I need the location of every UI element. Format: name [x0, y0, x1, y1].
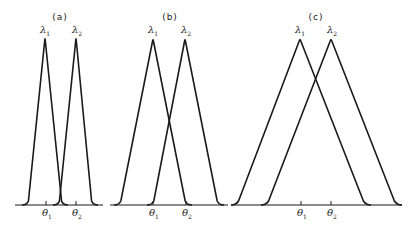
tuning-curve-λ2 — [261, 40, 402, 206]
panel-a — [15, 39, 103, 206]
panel-label: (c) — [309, 13, 324, 22]
tick-label-theta: θ1 — [149, 208, 159, 220]
peak-label-lambda: λ1 — [295, 25, 305, 37]
peak-label-lambda: λ2 — [181, 25, 191, 37]
tick-label-theta: θ1 — [297, 208, 307, 220]
peak-label-lambda: λ1 — [148, 25, 158, 37]
panel-label: (b) — [162, 13, 178, 22]
panel-b — [110, 40, 228, 206]
panel-label: (a) — [52, 13, 68, 22]
tick-label-theta: θ2 — [327, 208, 337, 220]
tuning-curves-figure — [0, 0, 419, 228]
peak-label-lambda: λ2 — [327, 25, 337, 37]
tuning-curve-λ1 — [231, 40, 371, 206]
tick-label-theta: θ2 — [72, 208, 82, 220]
panel-c — [231, 40, 402, 206]
tick-label-theta: θ2 — [182, 208, 192, 220]
peak-label-lambda: λ2 — [72, 25, 82, 37]
peak-label-lambda: λ1 — [40, 25, 50, 37]
tick-label-theta: θ1 — [42, 208, 52, 220]
